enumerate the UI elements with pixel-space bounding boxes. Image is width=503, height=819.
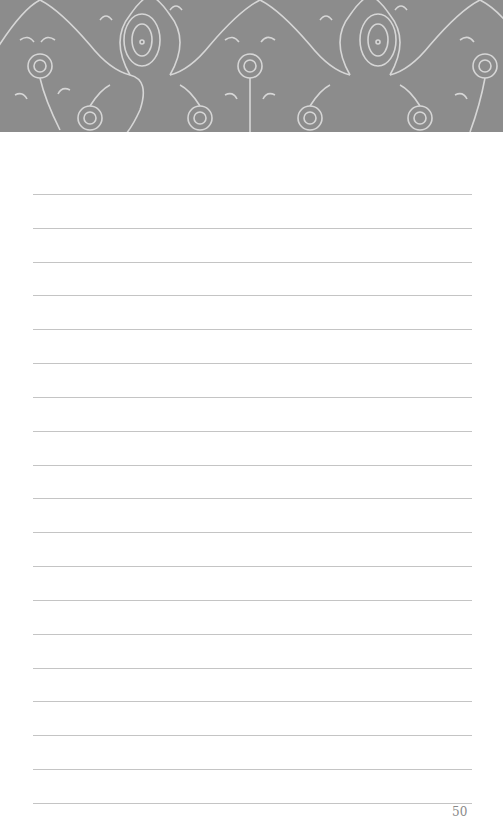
- ruled-line[interactable]: [33, 194, 472, 195]
- floral-pattern-icon: [0, 0, 503, 132]
- ruled-line[interactable]: [33, 701, 472, 702]
- ruled-line[interactable]: [33, 735, 472, 736]
- ruled-line[interactable]: [33, 498, 472, 499]
- ruled-line[interactable]: [33, 465, 472, 466]
- page-number: 50: [452, 806, 467, 818]
- ruled-line[interactable]: [33, 634, 472, 635]
- ruled-line[interactable]: [33, 431, 472, 432]
- ruled-line[interactable]: [33, 769, 472, 770]
- ruled-line[interactable]: [33, 600, 472, 601]
- ruled-line[interactable]: [33, 228, 472, 229]
- ruled-line[interactable]: [33, 363, 472, 364]
- ruled-line[interactable]: [33, 397, 472, 398]
- ruled-line[interactable]: [33, 668, 472, 669]
- ruled-line[interactable]: [33, 295, 472, 296]
- ruled-line[interactable]: [33, 262, 472, 263]
- ruled-line[interactable]: [33, 566, 472, 567]
- ornamental-banner: [0, 0, 503, 132]
- ruled-line[interactable]: [33, 329, 472, 330]
- ruled-line[interactable]: [33, 803, 472, 804]
- ruled-line[interactable]: [33, 532, 472, 533]
